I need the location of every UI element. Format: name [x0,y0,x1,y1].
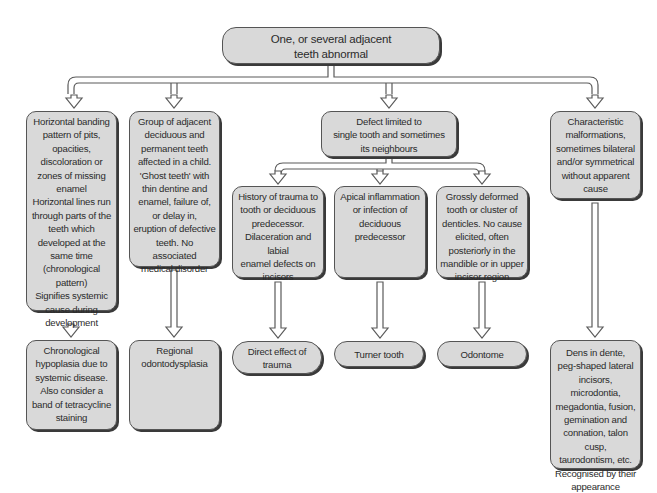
flowchart: One, or several adjacent teeth abnormal … [0,0,657,493]
node-ghost-teeth: Group of adjacent deciduous and permanen… [129,111,220,267]
node-odontome: Odontome [437,341,527,367]
arrow-to-direct-trauma [270,282,286,338]
arrow-to-ghost-teeth [166,95,182,108]
node-chronological-pattern: Horizontal banding pattern of pits, opac… [26,111,117,311]
node-deformed-tooth-text: Grossly deformed tooth or cluster of den… [440,190,524,284]
node-characteristic-malformations-text: Characteristic malformations, sometimes … [554,115,637,195]
node-trauma-history: History of trauma to tooth or deciduous … [232,186,324,278]
bus-drop-ghost [171,83,177,94]
arrow-to-odontome [474,282,490,338]
arrow-to-single-tooth [381,95,397,108]
node-dens-in-dente: Dens in dente, peg-shaped lateral inciso… [550,340,641,469]
node-root: One, or several adjacent teeth abnormal [222,27,440,64]
node-trauma-history-text: History of trauma to tooth or deciduous … [236,190,320,284]
node-direct-trauma-text: Direct effect of trauma [236,345,318,372]
arrow-to-regional-odontodysplasia [166,270,182,337]
node-single-tooth-text: Defect limited to single tooth and somet… [325,115,453,155]
top-connector-bus-outer [68,65,598,94]
node-ghost-teeth-text: Group of adjacent deciduous and permanen… [133,115,216,276]
arrow-to-turner-tooth [372,282,388,338]
node-direct-trauma: Direct effect of trauma [232,341,322,374]
node-regional-odontodysplasia-text: Regional odontodysplasia [133,344,216,371]
arrow-to-characteristic [587,95,603,108]
node-chronological-hypoplasia-text: Chronological hypoplasia due to systemic… [30,344,113,424]
arrow-to-apical-inflammation [372,171,388,184]
node-single-tooth: Defect limited to single tooth and somet… [321,111,457,157]
node-odontome-text: Odontome [441,345,523,361]
node-turner-tooth: Turner tooth [334,341,424,367]
arrow-to-trauma-history [270,171,286,184]
node-apical-inflammation-text: Apical inflammation or infection of deci… [338,190,422,244]
top-connector-bus-inner [74,83,592,94]
node-characteristic-malformations: Characteristic malformations, sometimes … [550,111,641,199]
node-regional-odontodysplasia: Regional odontodysplasia [129,340,220,430]
node-turner-tooth-text: Turner tooth [338,345,420,361]
node-root-text: One, or several adjacent teeth abnormal [226,32,436,62]
node-deformed-tooth: Grossly deformed tooth or cluster of den… [436,186,528,278]
bus-drop-single [386,83,392,94]
arrow-to-chronological-pattern [66,95,82,108]
arrow-to-deformed-tooth [474,171,490,184]
node-chronological-hypoplasia: Chronological hypoplasia due to systemic… [26,340,117,430]
node-apical-inflammation: Apical inflammation or infection of deci… [334,186,426,278]
node-chronological-pattern-text: Horizontal banding pattern of pits, opac… [30,115,113,330]
arrow-to-dens-in-dente [587,203,603,337]
node-dens-in-dente-text: Dens in dente, peg-shaped lateral inciso… [554,344,637,493]
